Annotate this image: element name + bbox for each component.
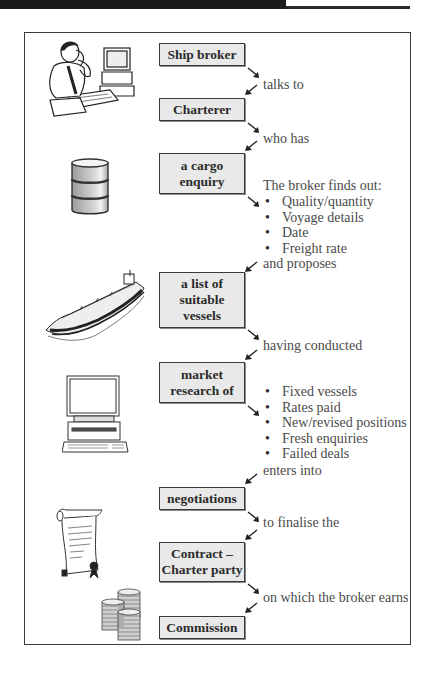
edge-label-having-conducted: having conducted bbox=[263, 338, 362, 354]
node-commission: Commission bbox=[159, 616, 245, 639]
node-label-line: enquiry bbox=[179, 174, 224, 190]
arrow-in-icon bbox=[244, 602, 258, 614]
arrow-in-icon bbox=[244, 84, 258, 96]
list-item: Quality/quantity bbox=[263, 194, 374, 210]
edge-label-to-finalise-the: to finalise the bbox=[263, 515, 339, 531]
node-label-line: research of bbox=[170, 383, 234, 399]
diagram-page: Ship broker Charterer a cargo enquiry a … bbox=[0, 0, 436, 676]
header-rule bbox=[286, 6, 410, 9]
scroll-document-icon bbox=[54, 508, 106, 580]
desktop-computer-icon bbox=[62, 374, 130, 454]
node-label-line: Contract – bbox=[171, 546, 233, 562]
list-item: Failed deals bbox=[263, 446, 407, 462]
broker-finds-out-heading: The broker finds out: bbox=[263, 178, 382, 194]
arrow-out-icon bbox=[247, 67, 261, 79]
arrow-in-icon bbox=[244, 473, 258, 485]
node-label: Ship broker bbox=[167, 47, 236, 63]
node-negotiations: negotiations bbox=[159, 487, 245, 510]
header-bar bbox=[0, 0, 286, 9]
coin-stacks-icon bbox=[100, 588, 150, 642]
list-item: Date bbox=[263, 225, 374, 241]
node-label: Charterer bbox=[173, 102, 231, 118]
node-contract-charter-party: Contract – Charter party bbox=[159, 542, 245, 582]
arrow-out-icon bbox=[247, 583, 261, 595]
list-item: Fixed vessels bbox=[263, 384, 407, 400]
list-item: Fresh enquiries bbox=[263, 431, 407, 447]
list-item: New/revised positions bbox=[263, 415, 407, 431]
arrow-out-icon bbox=[247, 196, 261, 208]
edge-label-and-proposes: and proposes bbox=[263, 256, 337, 272]
arrow-out-icon bbox=[247, 405, 261, 417]
broker-finds-out-list: Quality/quantity Voyage details Date Fre… bbox=[263, 194, 374, 256]
node-label-line: a list of bbox=[181, 276, 223, 292]
node-ship-broker: Ship broker bbox=[159, 43, 245, 66]
list-item: Rates paid bbox=[263, 400, 407, 416]
arrow-in-icon bbox=[244, 140, 258, 152]
node-label-line: suitable bbox=[179, 292, 224, 308]
research-items-list: Fixed vessels Rates paid New/revised pos… bbox=[263, 384, 407, 462]
list-item: Freight rate bbox=[263, 241, 374, 257]
arrow-out-icon bbox=[247, 511, 261, 523]
tanker-ship-icon bbox=[40, 266, 150, 346]
node-label-line: Charter party bbox=[161, 562, 242, 578]
arrow-in-icon bbox=[244, 529, 258, 541]
node-label-line: market bbox=[181, 367, 223, 383]
node-suitable-vessels: a list of suitable vessels bbox=[159, 272, 245, 328]
arrow-in-icon bbox=[244, 261, 258, 273]
node-charterer: Charterer bbox=[159, 98, 245, 121]
node-label-line: a cargo bbox=[181, 158, 223, 174]
node-label: Commission bbox=[166, 620, 237, 636]
edge-label-enters-into: enters into bbox=[263, 463, 322, 479]
node-label-line: vessels bbox=[183, 308, 221, 324]
node-cargo-enquiry: a cargo enquiry bbox=[159, 153, 245, 194]
node-label: negotiations bbox=[167, 491, 237, 507]
arrow-in-icon bbox=[244, 349, 258, 361]
arrow-out-icon bbox=[247, 329, 261, 341]
edge-label-broker-earns: on which the broker earns bbox=[263, 590, 408, 606]
arrow-out-icon bbox=[247, 122, 261, 134]
broker-at-computer-icon bbox=[40, 38, 140, 123]
node-market-research: market research of bbox=[159, 362, 245, 403]
list-item: Voyage details bbox=[263, 210, 374, 226]
edge-label-who-has: who has bbox=[263, 131, 309, 147]
oil-barrel-icon bbox=[70, 157, 110, 217]
edge-label-talks-to: talks to bbox=[263, 77, 304, 93]
